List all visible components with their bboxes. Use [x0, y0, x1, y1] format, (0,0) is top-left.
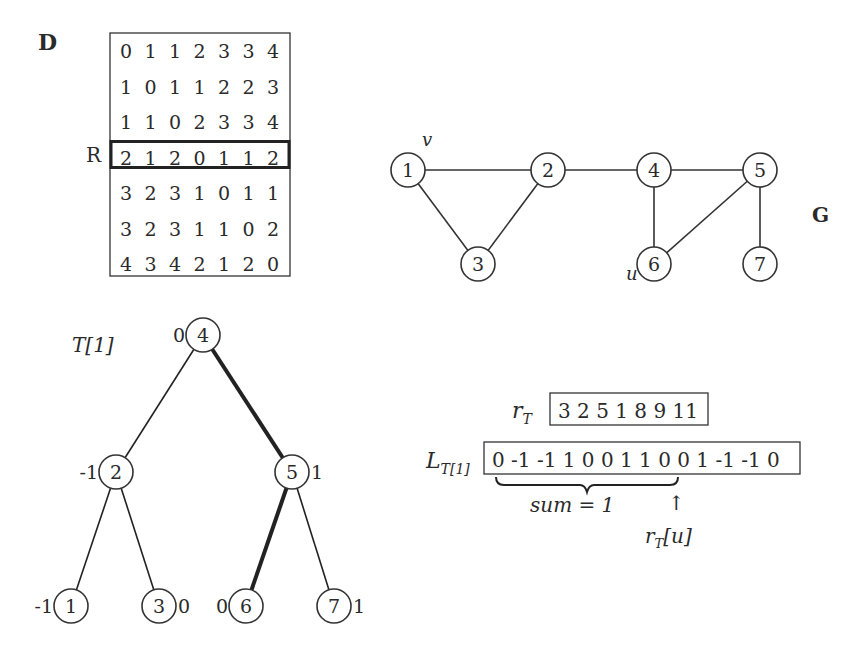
node-value: 0 — [178, 595, 190, 617]
tree-node-1: 1-1 — [34, 589, 88, 623]
graph-node-5: 5 — [743, 153, 777, 187]
lt-label: LT[1] — [425, 448, 470, 477]
graph-node-6: 6u — [626, 247, 671, 284]
arrays-panel: rT 3 2 5 1 8 9 11 LT[1] 0 -1 -1 1 0 0 1 … — [425, 393, 800, 551]
graph-node-2: 2 — [531, 153, 565, 187]
node-label: 4 — [648, 159, 660, 181]
node-annotation: v — [422, 129, 432, 150]
matrix-cell: 3 — [145, 253, 157, 275]
matrix-cell: 1 — [145, 147, 157, 169]
tree-edge — [71, 472, 116, 606]
node-label: 4 — [197, 324, 209, 346]
tree-node-6: 60 — [216, 589, 263, 623]
matrix-cell: 1 — [267, 182, 279, 204]
matrix-cell: 2 — [145, 218, 157, 240]
matrix-cell: 2 — [267, 218, 279, 240]
matrix-cell: 3 — [218, 111, 230, 133]
matrix-cell: 4 — [267, 40, 279, 62]
node-value: 0 — [216, 595, 228, 617]
matrix-cell: 1 — [169, 40, 181, 62]
tree-edge-bold — [203, 335, 292, 472]
matrix-cell: 3 — [218, 40, 230, 62]
node-label: 7 — [328, 595, 340, 617]
matrix-cell: 3 — [267, 76, 279, 98]
row-label: R — [86, 143, 102, 167]
rt-values: 3 2 5 1 8 9 11 — [558, 399, 698, 423]
tree-t1: T[1] 402-1511-1306071 — [34, 318, 365, 623]
matrix-cell: 0 — [267, 253, 279, 275]
matrix-cell: 1 — [145, 111, 157, 133]
matrix-cell: 0 — [120, 40, 132, 62]
node-label: 2 — [110, 461, 122, 483]
node-label: 7 — [754, 253, 766, 275]
tree-node-3: 30 — [142, 589, 190, 623]
matrix-cell: 2 — [194, 111, 206, 133]
tree-edge — [116, 335, 203, 472]
sum-label: sum = 1 — [530, 493, 614, 517]
matrix-cell: 2 — [194, 40, 206, 62]
sum-brace — [496, 477, 678, 492]
node-value: 1 — [311, 461, 323, 483]
graph-node-1: 1v — [391, 129, 432, 187]
tree-node-5: 51 — [275, 455, 323, 489]
node-annotation: u — [626, 263, 638, 284]
matrix-cell: 1 — [145, 40, 157, 62]
node-label: 1 — [65, 595, 77, 617]
matrix-cell: 3 — [243, 40, 255, 62]
matrix-cell: 2 — [145, 182, 157, 204]
matrix-cell: 1 — [194, 218, 206, 240]
matrix-cell: 0 — [218, 182, 230, 204]
matrix-cell: 2 — [267, 147, 279, 169]
node-label: 5 — [286, 461, 298, 483]
graph-edges — [408, 170, 760, 264]
graph-g: 1v23456u7 G — [391, 129, 829, 284]
matrix-cell: 0 — [243, 218, 255, 240]
node-label: 1 — [402, 159, 414, 181]
node-label: 6 — [240, 595, 252, 617]
matrix-cell: 4 — [267, 111, 279, 133]
tree-label: T[1] — [72, 333, 114, 357]
node-label: 5 — [754, 159, 766, 181]
tree-node-7: 71 — [317, 589, 365, 623]
matrix-cell: 1 — [218, 218, 230, 240]
tree-node-4: 40 — [173, 318, 220, 352]
diagram-canvas: D R 011233410112231102334212011232310113… — [0, 0, 863, 650]
matrix-cell: 2 — [120, 147, 132, 169]
node-value: 1 — [353, 595, 365, 617]
graph-node-3: 3 — [461, 247, 495, 281]
matrix-cell: 0 — [145, 76, 157, 98]
node-value: 0 — [173, 324, 185, 346]
node-label: 3 — [153, 595, 165, 617]
node-label: 2 — [542, 159, 554, 181]
matrix-cell: 3 — [169, 182, 181, 204]
matrix-cell: 3 — [120, 218, 132, 240]
matrix-cell: 1 — [218, 253, 230, 275]
tree-edge-bold — [246, 472, 292, 606]
matrix-cell: 1 — [120, 111, 132, 133]
pointer-label: rT[u] — [645, 524, 692, 551]
matrix-cell: 2 — [218, 76, 230, 98]
pointer-arrow-icon: ↑ — [668, 491, 685, 515]
matrix-cell: 1 — [194, 76, 206, 98]
matrix-cell: 1 — [169, 76, 181, 98]
rt-label: rT — [512, 398, 534, 427]
matrix-cell: 0 — [194, 147, 206, 169]
matrix-cell: 2 — [243, 253, 255, 275]
tree-edge — [292, 472, 334, 606]
matrix-cell: 2 — [194, 253, 206, 275]
graph-edge — [654, 170, 760, 264]
matrix-cell: 3 — [243, 111, 255, 133]
matrix-cell: 4 — [120, 253, 132, 275]
tree-node-2: 2-1 — [79, 455, 133, 489]
matrix-cells: 0112334101122311023342120112323101132311… — [120, 40, 279, 275]
node-label: 3 — [472, 253, 484, 275]
graph-node-7: 7 — [743, 247, 777, 281]
node-label: 6 — [648, 253, 660, 275]
matrix-cell: 1 — [218, 147, 230, 169]
node-value: -1 — [79, 461, 98, 483]
tree-nodes: 402-1511-1306071 — [34, 318, 365, 623]
distance-matrix: D R 011233410112231102334212011232310113… — [38, 29, 290, 276]
matrix-cell: 2 — [243, 76, 255, 98]
matrix-cell: 1 — [243, 182, 255, 204]
matrix-cell: 3 — [120, 182, 132, 204]
